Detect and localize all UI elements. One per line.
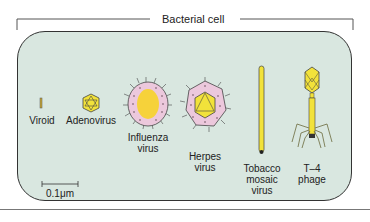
scale-bar (42, 181, 78, 187)
scale-bar-label: 0.1μm (40, 188, 80, 199)
tobacco-mosaic-label: Tobacco mosaic virus (237, 163, 287, 196)
viroid-icon (40, 98, 42, 108)
divider-line (0, 209, 370, 210)
tobacco-mosaic-icon (259, 66, 264, 154)
adenovirus-icon (83, 94, 99, 112)
influenza-icon (123, 77, 172, 129)
viroid-label: Viroid (22, 115, 62, 126)
t4-phage-label: T–4 phage (292, 163, 332, 185)
herpes-icon (180, 77, 231, 132)
herpes-label: Herpes virus (180, 151, 230, 173)
adenovirus-label: Adenovirus (61, 115, 121, 126)
influenza-label: Influenza virus (118, 132, 178, 154)
t4-phage-icon (292, 67, 332, 148)
